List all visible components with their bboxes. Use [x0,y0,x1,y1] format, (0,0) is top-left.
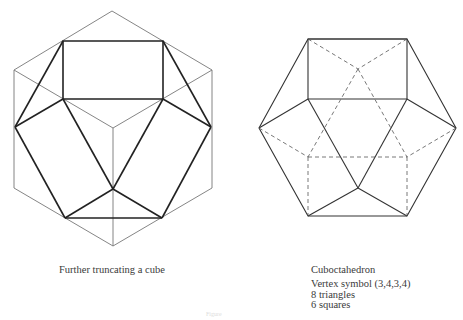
cuboctahedron-visible-edges [259,39,456,216]
square-count: 6 squares [311,300,410,311]
left-figure-caption: Further truncating a cube [59,264,165,275]
cuboctahedron-hidden-edges [259,39,456,216]
cuboctahedron-details: Vertex symbol (3,4,3,4) 8 triangles 6 sq… [311,279,410,311]
cube-outline [14,11,212,246]
vertex-symbol: Vertex symbol (3,4,3,4) [311,279,410,290]
figure-label: Figure [206,309,222,320]
right-figure-caption: Cuboctahedron [311,264,375,275]
